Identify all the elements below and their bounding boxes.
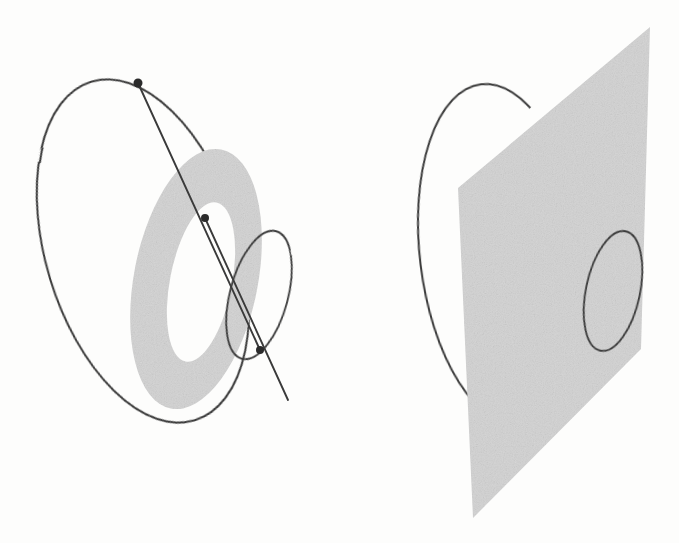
- left-point-top: [134, 79, 143, 88]
- left-point-bottom-right: [256, 346, 264, 354]
- geometry-figure: [0, 0, 679, 543]
- right-shaded-plane: [458, 27, 650, 518]
- left-shaded-annulus: [120, 135, 280, 425]
- right-diagram: [400, 27, 652, 518]
- left-diagram: [0, 53, 304, 448]
- left-point-center: [201, 214, 209, 222]
- figure-root: [0, 0, 679, 543]
